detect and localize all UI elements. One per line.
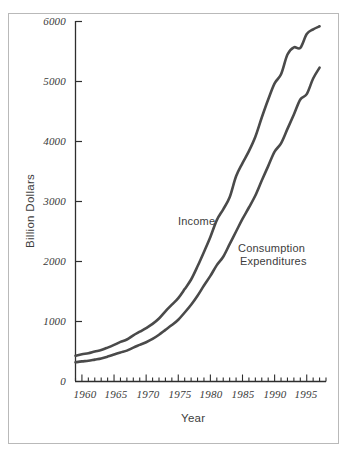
- series-line-income: [76, 26, 320, 355]
- y-tick-label-4000: 4000: [22, 135, 66, 147]
- annotation-income: Income: [178, 215, 215, 228]
- y-tick-label-2000: 2000: [22, 255, 66, 267]
- chart-figure: 6000 5000 4000 3000 2000 1000 0 1960 196…: [0, 0, 353, 458]
- y-tick-label-6000: 6000: [22, 15, 66, 27]
- x-tick-label-1995: 1995: [287, 388, 325, 400]
- x-axis-title: Year: [181, 412, 205, 424]
- annotation-consumption-line2: Expenditures: [240, 255, 307, 268]
- x-axis-ticks: [76, 375, 327, 382]
- y-tick-label-0: 0: [22, 375, 66, 387]
- y-tick-label-5000: 5000: [22, 75, 66, 87]
- y-axis-title: Billion Dollars: [24, 174, 36, 248]
- y-axis-ticks: [76, 22, 83, 322]
- y-tick-label-1000: 1000: [22, 315, 66, 327]
- annotation-consumption-line1: Consumption: [238, 242, 305, 255]
